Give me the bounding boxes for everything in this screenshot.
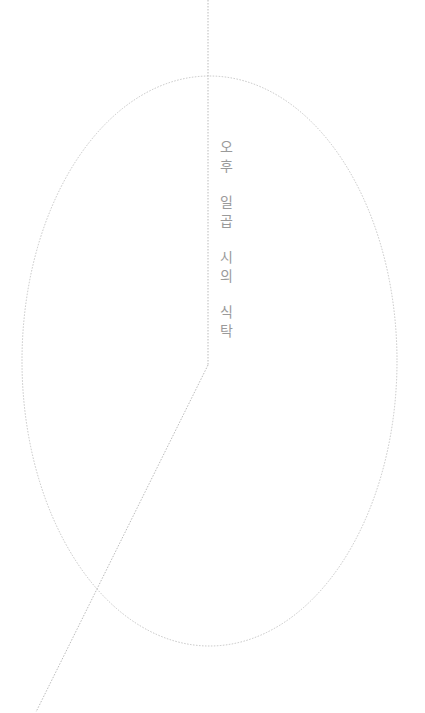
title-char: 식 xyxy=(216,303,236,322)
dotted-ellipse xyxy=(22,76,397,646)
vertical-title: 오 후 일 곱 시 의 식 탁 xyxy=(216,138,236,358)
title-word: 일 곱 xyxy=(216,193,236,231)
title-char: 오 xyxy=(216,138,236,157)
title-word: 오 후 xyxy=(216,138,236,176)
title-char: 곱 xyxy=(216,212,236,231)
title-char: 탁 xyxy=(216,322,236,341)
title-char: 의 xyxy=(216,267,236,286)
title-char: 일 xyxy=(216,193,236,212)
title-char: 후 xyxy=(216,157,236,176)
title-word: 식 탁 xyxy=(216,303,236,341)
decorative-graphic xyxy=(0,0,425,713)
title-char: 시 xyxy=(216,248,236,267)
diagonal-dotted-line xyxy=(36,365,208,712)
title-word: 시 의 xyxy=(216,248,236,286)
